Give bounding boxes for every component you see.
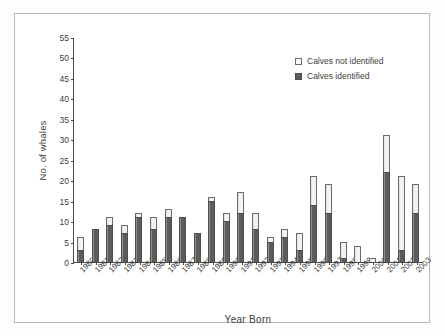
bar-segment-not-identified[interactable]	[412, 184, 419, 213]
bar-segment-not-identified[interactable]	[252, 213, 259, 229]
bar-segment-identified[interactable]	[223, 221, 230, 262]
bar-segment-not-identified[interactable]	[398, 176, 405, 250]
bar-stack[interactable]	[106, 217, 113, 262]
y-tick-label: 15	[39, 198, 74, 206]
bar-segment-not-identified[interactable]	[383, 135, 390, 172]
bar-stack[interactable]	[121, 225, 128, 262]
bar-stack[interactable]	[194, 233, 201, 262]
bar-segment-identified[interactable]	[281, 237, 288, 262]
bar-stack[interactable]	[398, 176, 405, 262]
bar-slot: 1986	[162, 38, 177, 262]
legend-item[interactable]: Calves not identified	[295, 56, 384, 66]
y-tick-label: 20	[39, 177, 74, 185]
bar-segment-identified[interactable]	[383, 172, 390, 262]
bar-segment-not-identified[interactable]	[281, 229, 288, 237]
bar-slot: 1983	[118, 38, 133, 262]
bar-slot: 1991	[234, 38, 249, 262]
bar-stack[interactable]	[252, 213, 259, 262]
legend-swatch-icon	[295, 58, 302, 65]
legend-item[interactable]: Calves identified	[295, 71, 384, 81]
bar-stack[interactable]	[92, 229, 99, 262]
bar-stack[interactable]	[237, 192, 244, 262]
bar-slot: 1980	[74, 38, 89, 262]
bar-stack[interactable]	[179, 217, 186, 262]
y-tick-label: 50	[39, 54, 74, 62]
bar-slot: 1994	[278, 38, 293, 262]
bar-segment-not-identified[interactable]	[223, 213, 230, 221]
bar-segment-not-identified[interactable]	[310, 176, 317, 205]
bar-segment-not-identified[interactable]	[165, 209, 172, 217]
y-tick-label: 25	[39, 157, 74, 165]
bar-segment-identified[interactable]	[267, 242, 274, 262]
bar-segment-identified[interactable]	[252, 229, 259, 262]
bar-segment-not-identified[interactable]	[237, 192, 244, 212]
bar-stack[interactable]	[325, 184, 332, 262]
bar-segment-identified[interactable]	[77, 250, 84, 262]
bar-segment-identified[interactable]	[121, 233, 128, 262]
bar-slot: 1992	[249, 38, 264, 262]
bar-stack[interactable]	[354, 246, 361, 262]
y-tick-label: 40	[39, 95, 74, 103]
bar-segment-identified[interactable]	[237, 213, 244, 262]
y-tick-label: 30	[39, 136, 74, 144]
bar-slot: 1990	[220, 38, 235, 262]
bar-segment-identified[interactable]	[92, 229, 99, 262]
bar-slot: 1981	[89, 38, 104, 262]
bar-segment-identified[interactable]	[165, 217, 172, 262]
bar-stack[interactable]	[150, 217, 157, 262]
y-tick-label: 45	[39, 75, 74, 83]
legend-label: Calves not identified	[307, 56, 384, 66]
bar-stack[interactable]	[77, 237, 84, 262]
bar-stack[interactable]	[208, 197, 215, 262]
figure-frame: No. of whales 0510152025303540455055 198…	[14, 13, 430, 323]
bar-stack[interactable]	[383, 135, 390, 262]
bar-stack[interactable]	[296, 233, 303, 262]
bar-segment-identified[interactable]	[208, 201, 215, 262]
bar-segment-not-identified[interactable]	[296, 233, 303, 249]
bar-slot: 1987	[176, 38, 191, 262]
bar-slot: 1985	[147, 38, 162, 262]
y-axis-label: No. of whales	[37, 38, 49, 263]
y-tick-label: 5	[39, 239, 74, 247]
bar-segment-not-identified[interactable]	[340, 242, 347, 258]
legend-swatch-icon	[295, 73, 302, 80]
bar-segment-not-identified[interactable]	[354, 246, 361, 262]
bar-stack[interactable]	[267, 237, 274, 262]
bar-segment-identified[interactable]	[325, 213, 332, 262]
bar-slot: 2002	[395, 38, 410, 262]
bar-segment-not-identified[interactable]	[106, 217, 113, 225]
bar-segment-not-identified[interactable]	[77, 237, 84, 249]
bar-slot: 1982	[103, 38, 118, 262]
legend-label: Calves identified	[307, 71, 369, 81]
bar-segment-not-identified[interactable]	[150, 217, 157, 229]
bar-stack[interactable]	[412, 184, 419, 262]
bar-stack[interactable]	[281, 229, 288, 262]
y-tick-label: 35	[39, 116, 74, 124]
bar-stack[interactable]	[223, 213, 230, 262]
bar-segment-identified[interactable]	[150, 229, 157, 262]
bar-slot: 1988	[191, 38, 206, 262]
bar-slot: 2003	[409, 38, 424, 262]
bar-segment-identified[interactable]	[106, 225, 113, 262]
bar-segment-identified[interactable]	[179, 217, 186, 262]
bar-segment-not-identified[interactable]	[325, 184, 332, 213]
x-axis-label: Year Born	[73, 314, 423, 325]
bar-stack[interactable]	[135, 213, 142, 262]
bar-slot: 1989	[205, 38, 220, 262]
bar-segment-identified[interactable]	[310, 205, 317, 262]
bar-slot: 1984	[132, 38, 147, 262]
figure: No. of whales 0510152025303540455055 198…	[0, 0, 445, 336]
bar-segment-identified[interactable]	[398, 250, 405, 262]
chart-legend: Calves not identifiedCalves identified	[295, 56, 384, 86]
bar-segment-identified[interactable]	[194, 233, 201, 262]
bar-stack[interactable]	[165, 209, 172, 262]
bar-slot: 1993	[264, 38, 279, 262]
y-tick-label: 0	[39, 259, 74, 267]
bar-segment-identified[interactable]	[412, 213, 419, 262]
bar-stack[interactable]	[310, 176, 317, 262]
bar-segment-identified[interactable]	[135, 217, 142, 262]
bar-stack[interactable]	[340, 242, 347, 262]
bar-segment-identified[interactable]	[296, 250, 303, 262]
y-tick-label: 55	[39, 34, 74, 42]
bar-segment-not-identified[interactable]	[121, 225, 128, 233]
